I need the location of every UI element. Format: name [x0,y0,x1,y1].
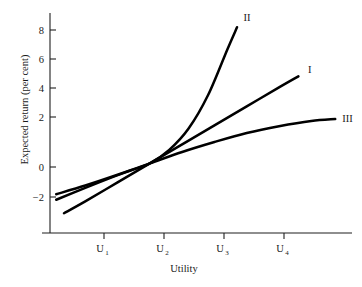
y-tick-label: 2 [39,112,44,123]
x-tick-subscript: 2 [165,249,169,257]
y-tick-label: 0 [39,162,44,173]
y-axis-title: Expected return (per cent) [19,30,30,190]
y-tick-label: −2 [33,192,44,203]
x-tick-label: U [96,243,104,254]
x-axis-title: Utility [170,263,198,274]
x-axis-ticks [104,233,284,239]
x-axis-tick-labels: U 1 U 2 U 3 U 4 [96,243,289,257]
x-tick-label: U [216,243,224,254]
x-tick-subscript: 4 [285,249,289,257]
curve-line-i [64,76,298,213]
x-tick-subscript: 1 [105,249,109,257]
curve-label-iii: III [342,113,353,124]
y-axis-ticks [50,30,56,197]
curve-line-ii [56,27,237,200]
chart-figure: 8 6 4 2 0 −2 U 1 U 2 U 3 U 4 [0,0,362,287]
y-axis-tick-labels: 8 6 4 2 0 −2 [33,25,45,203]
x-tick-label: U [156,243,164,254]
y-tick-label: 6 [39,54,44,65]
x-tick-label: U [276,243,284,254]
curve-label-i: I [308,64,312,75]
curve-label-ii: II [244,12,251,23]
x-tick-subscript: 3 [225,249,229,257]
y-tick-label: 4 [39,83,45,94]
chart-plot-area: 8 6 4 2 0 −2 U 1 U 2 U 3 U 4 [0,0,362,287]
y-tick-label: 8 [39,25,44,36]
